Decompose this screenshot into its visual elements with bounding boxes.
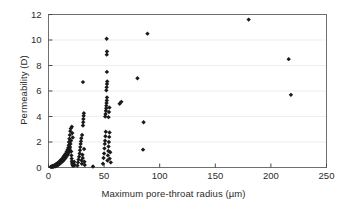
data-point-marker [105, 79, 109, 83]
data-point-marker [106, 115, 110, 119]
data-point-marker [106, 144, 110, 148]
data-point-marker [246, 17, 250, 21]
x-axis-tick-label: 200 [256, 170, 286, 181]
scatter-chart-figure: Maximum pore-throat radius (µm) Permeabi… [0, 0, 347, 209]
data-point-marker [135, 76, 139, 80]
data-point-marker [102, 151, 106, 155]
data-point-marker [107, 140, 111, 144]
data-point-marker [80, 133, 84, 137]
data-point-marker [107, 130, 111, 134]
data-point-marker [105, 70, 109, 74]
x-axis-tick-label: 250 [312, 170, 342, 181]
data-point-marker [82, 147, 86, 151]
data-point-marker [82, 111, 86, 115]
data-point-marker [105, 95, 109, 99]
data-point-marker [289, 93, 293, 97]
data-point-marker [103, 134, 107, 138]
data-point-marker [141, 147, 145, 151]
x-axis-tick-label: 100 [145, 170, 175, 181]
y-axis-tick-label: 2 [20, 136, 42, 147]
data-point-marker [104, 130, 108, 134]
y-axis-tick-label: 8 [20, 60, 42, 71]
y-axis-tick-label: 10 [20, 34, 42, 45]
data-point-marker [102, 146, 106, 150]
y-axis-tick-label: 0 [20, 162, 42, 173]
data-point-marker [81, 80, 85, 84]
x-axis-tick-label: 50 [89, 170, 119, 181]
data-point-marker [79, 136, 83, 140]
y-axis-tick-label: 4 [20, 111, 42, 122]
data-point-marker [91, 164, 95, 168]
data-point-marker [105, 49, 109, 53]
data-point-marker [101, 156, 105, 160]
data-point-marker [107, 135, 111, 139]
data-point-marker [141, 120, 145, 124]
x-axis-tick-label: 150 [200, 170, 230, 181]
data-point-marker [145, 31, 149, 35]
y-axis-tick-label: 6 [20, 85, 42, 96]
data-point-marker [286, 57, 290, 61]
x-axis-title: Maximum pore-throat radius (µm) [0, 188, 347, 199]
y-axis-tick-label: 12 [20, 9, 42, 20]
